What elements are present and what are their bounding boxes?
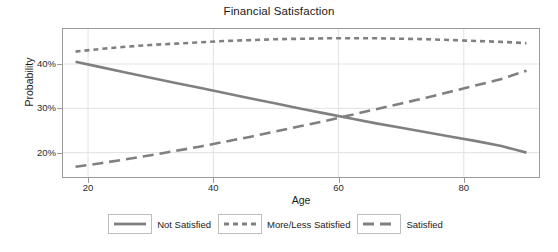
x-tick-mark bbox=[464, 178, 465, 183]
x-tick-mark bbox=[88, 178, 89, 183]
legend-entry: Not Satisfied bbox=[108, 214, 218, 234]
y-tick-label: 40% bbox=[0, 58, 62, 69]
legend-label: Not Satisfied bbox=[152, 219, 218, 230]
y-tick-label: 30% bbox=[0, 102, 62, 113]
x-tick-label: 40 bbox=[193, 182, 233, 193]
x-tick-mark bbox=[213, 178, 214, 183]
y-axis-label: Probability bbox=[23, 27, 35, 137]
legend-key-swatch bbox=[357, 214, 401, 234]
financial-satisfaction-chart: Financial Satisfaction Probability Age 2… bbox=[0, 0, 558, 252]
x-tick-label: 20 bbox=[68, 182, 108, 193]
legend-key-swatch bbox=[108, 214, 152, 234]
series-line bbox=[76, 62, 527, 153]
legend-entry: More/Less Satisfied bbox=[218, 214, 357, 234]
legend-label: More/Less Satisfied bbox=[262, 219, 357, 230]
legend-key-swatch bbox=[218, 214, 262, 234]
legend-label: Satisfied bbox=[401, 219, 449, 230]
chart-title: Financial Satisfaction bbox=[0, 5, 558, 17]
plot-area bbox=[62, 28, 540, 178]
x-tick-mark bbox=[339, 178, 340, 183]
legend-entry: Satisfied bbox=[357, 214, 449, 234]
y-tick-label: 20% bbox=[0, 147, 62, 158]
x-tick-label: 60 bbox=[319, 182, 359, 193]
x-axis-label: Age bbox=[62, 194, 540, 206]
series-lines bbox=[63, 29, 539, 177]
series-line bbox=[76, 38, 527, 51]
x-tick-label: 80 bbox=[444, 182, 484, 193]
chart-legend: Not SatisfiedMore/Less SatisfiedSatisfie… bbox=[0, 214, 558, 234]
